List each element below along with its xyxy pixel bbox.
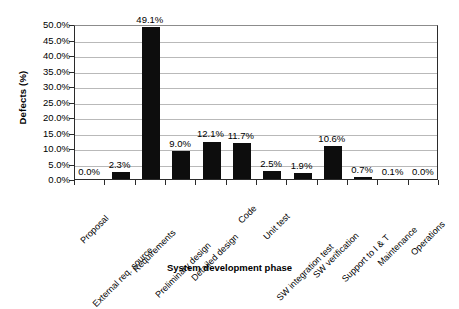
x-axis-category-label: Requirements <box>170 188 217 235</box>
y-axis-tick-label: 15.0% <box>10 129 70 139</box>
y-axis-tick-label: 45.0% <box>10 36 70 46</box>
gridline <box>75 135 437 136</box>
x-axis-tick-mark <box>408 180 409 185</box>
bar-value-label: 2.3% <box>109 160 131 170</box>
gridline <box>75 73 437 74</box>
bar-value-label: 2.5% <box>260 159 282 169</box>
gridline <box>75 42 437 43</box>
x-axis-category-label: Proposal <box>104 188 136 220</box>
gridline <box>75 150 437 151</box>
y-axis-tick-label: 20.0% <box>10 113 70 123</box>
x-axis-tick-mark <box>104 180 105 185</box>
x-axis-tick-mark <box>256 180 257 185</box>
bar-value-label: 1.9% <box>291 161 313 171</box>
x-axis-tick-mark <box>286 180 287 185</box>
y-axis-tick-label: 0.0% <box>10 175 70 185</box>
bar-value-label: 0.1% <box>382 167 404 177</box>
y-axis-tick-label: 35.0% <box>10 67 70 77</box>
x-axis-tick-mark <box>165 180 166 185</box>
y-axis-tick-label: 5.0% <box>10 160 70 170</box>
bar-value-label: 49.1% <box>136 15 163 25</box>
y-axis-tick-label: 25.0% <box>10 98 70 108</box>
x-axis-category-label-text: Proposal <box>78 213 110 245</box>
bar-value-label: 9.0% <box>169 139 191 149</box>
x-axis-tick-mark <box>347 180 348 185</box>
gridline <box>75 57 437 58</box>
y-axis-tick-label: 10.0% <box>10 144 70 154</box>
x-axis-tick-mark <box>377 180 378 185</box>
bar-value-label: 11.7% <box>228 131 254 141</box>
bar-value-label: 0.0% <box>78 167 100 177</box>
bar <box>263 171 281 179</box>
y-axis-tick-label: 50.0% <box>10 20 70 30</box>
y-axis-tick-label: 40.0% <box>10 51 70 61</box>
bar-value-label: 10.6% <box>318 134 345 144</box>
x-axis-tick-mark <box>74 180 75 185</box>
bar <box>203 142 221 180</box>
bar <box>233 143 251 179</box>
x-axis-tick-mark <box>195 180 196 185</box>
gridline <box>75 119 437 120</box>
bar <box>112 172 130 179</box>
bar <box>172 151 190 179</box>
x-axis-category-label-text: Unit test <box>261 211 291 241</box>
x-axis-tick-mark <box>438 180 439 185</box>
x-axis-title: System development phase <box>0 262 459 273</box>
bar-value-label: 0.7% <box>351 165 373 175</box>
x-axis-tick-mark <box>317 180 318 185</box>
x-axis-category-label: Unit test <box>285 188 315 218</box>
bar <box>324 146 342 179</box>
x-axis-tick-mark <box>135 180 136 185</box>
bar <box>354 177 372 179</box>
plot-area <box>74 25 438 180</box>
bar <box>294 173 312 179</box>
bar-value-label: 12.1% <box>197 129 224 139</box>
x-axis-tick-mark <box>226 180 227 185</box>
y-axis-tick-label: 30.0% <box>10 82 70 92</box>
gridline <box>75 104 437 105</box>
bar <box>142 27 160 179</box>
bar-value-label: 0.0% <box>412 167 434 177</box>
gridline <box>75 88 437 89</box>
